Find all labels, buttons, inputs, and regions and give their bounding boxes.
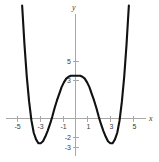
x-tick-label-pos5: 5 [133, 123, 137, 130]
x-tick-label-neg1: -1 [60, 123, 66, 130]
y-tick-label-pos5: 5 [67, 58, 71, 65]
x-tick-label-neg3: -3 [37, 123, 43, 130]
function-graph-figure: -5 -3 -1 1 3 5 5 3 -2 -3 x y [0, 0, 159, 162]
x-tick-label-pos3: 3 [110, 123, 114, 130]
x-tick-label-neg5: -5 [14, 123, 20, 130]
x-tick-label-pos1: 1 [87, 123, 91, 130]
y-tick-label-neg3: -3 [65, 144, 71, 151]
y-axis-label: y [71, 3, 76, 12]
y-tick-label-neg2: -2 [65, 134, 71, 141]
x-axis-label: x [148, 114, 153, 123]
plot-canvas: -5 -3 -1 1 3 5 5 3 -2 -3 x y [0, 0, 159, 162]
